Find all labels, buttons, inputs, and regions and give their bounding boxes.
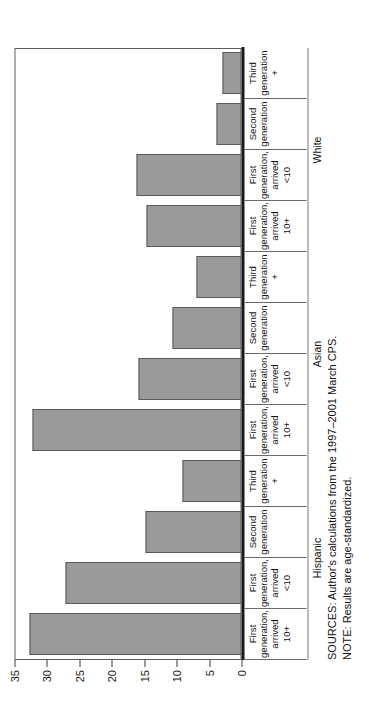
category-label-line: <10 <box>280 167 291 183</box>
chart-figure: 05101520253035 Percentage Firstgeneratio… <box>0 0 369 704</box>
category-label-line: Second <box>246 312 257 345</box>
category-axis-label: Thirdgeneration+ <box>244 48 306 99</box>
value-axis-tick <box>14 660 15 667</box>
category-label-line: generation <box>257 458 268 503</box>
value-axis-tick-label: 30 <box>40 670 52 682</box>
category-label-line: First <box>246 421 257 440</box>
category-axis: Firstgeneration,arrived10+Firstgeneratio… <box>244 47 324 660</box>
value-axis-tick-label: 20 <box>105 670 117 682</box>
category-label-line: 10+ <box>280 218 291 234</box>
category-label-line: arrived <box>268 160 279 189</box>
value-axis-tick-label: 15 <box>138 670 150 682</box>
category-label-line: Second <box>246 516 257 549</box>
category-label-line: generation, <box>257 610 268 658</box>
category-label-line: Third <box>246 470 257 492</box>
value-axis-tick <box>241 660 242 667</box>
value-axis-tick-label: 5 <box>203 670 215 676</box>
category-label-line: generation, <box>257 202 268 250</box>
bar <box>182 461 241 503</box>
category-label-line: 10+ <box>280 422 291 438</box>
category-label-line: + <box>268 274 279 280</box>
value-axis-tick <box>176 660 177 667</box>
category-axis-label: Secondgeneration <box>244 303 306 354</box>
group-label: Asian <box>308 252 324 456</box>
category-label-line: <10 <box>280 371 291 387</box>
category-label-line: 10+ <box>280 626 291 642</box>
category-label-line: arrived <box>268 211 279 240</box>
category-label-line: First <box>246 574 257 593</box>
figure: 05101520253035 Percentage Firstgeneratio… <box>0 0 369 704</box>
note-line: NOTE: Results are age-standardized. <box>339 40 354 660</box>
bar <box>32 410 241 452</box>
bar <box>146 206 241 248</box>
rotated-figure-container: 05101520253035 Percentage Firstgeneratio… <box>0 0 369 704</box>
bar <box>216 104 241 146</box>
category-label-line: First <box>246 370 257 389</box>
category-axis-label: Thirdgeneration+ <box>244 456 306 507</box>
value-axis-tick <box>111 660 112 667</box>
bar <box>196 257 241 299</box>
category-label-line: First <box>246 217 257 236</box>
category-label-line: First <box>246 166 257 185</box>
sources-note: SOURCES: Author's calculations from the … <box>324 40 339 660</box>
category-label-line: generation, <box>257 406 268 454</box>
value-axis-tick-label: 25 <box>73 670 85 682</box>
category-label-line: generation <box>257 305 268 350</box>
category-axis-label: Firstgeneration,arrived<10 <box>244 354 306 405</box>
category-axis-label: Firstgeneration,arrived<10 <box>244 150 306 201</box>
category-label-line: Second <box>246 108 257 141</box>
category-label-line: + <box>268 70 279 76</box>
footnotes: SOURCES: Author's calculations from the … <box>324 40 354 660</box>
value-axis-tick-label: 35 <box>8 670 20 682</box>
category-label-line: + <box>268 478 279 484</box>
category-label-line: Third <box>246 266 257 288</box>
value-axis-tick <box>144 660 145 667</box>
group-label: Hispanic <box>308 456 324 660</box>
category-axis-label: Thirdgeneration+ <box>244 252 306 303</box>
value-axis: 05101520253035 <box>14 660 244 704</box>
category-axis-label: Firstgeneration,arrived10+ <box>244 201 306 252</box>
value-axis-tick <box>46 660 47 667</box>
bar <box>172 308 241 350</box>
category-label-line: arrived <box>268 619 279 648</box>
category-label-line: generation <box>257 254 268 299</box>
category-label-line: generation <box>257 509 268 554</box>
value-axis-tick-label: 10 <box>170 670 182 682</box>
bar <box>145 512 241 554</box>
category-label-line: Third <box>246 62 257 84</box>
category-axis-label: Firstgeneration,arrived10+ <box>244 405 306 456</box>
category-label-line: generation, <box>257 151 268 199</box>
bar <box>29 614 241 656</box>
category-label-line: generation, <box>257 355 268 403</box>
bar <box>65 563 241 605</box>
category-label-line: First <box>246 625 257 644</box>
bar <box>222 53 241 95</box>
category-axis-label: Secondgeneration <box>244 99 306 150</box>
group-label: White <box>308 48 324 252</box>
category-label-line: arrived <box>268 568 279 597</box>
category-axis-label: Secondgeneration <box>244 507 306 558</box>
bar <box>136 155 241 197</box>
value-axis-tick <box>209 660 210 667</box>
category-label-line: <10 <box>280 575 291 591</box>
category-axis-label: Firstgeneration,arrived10+ <box>244 609 306 660</box>
category-label-line: generation <box>257 50 268 95</box>
value-axis-tick <box>79 660 80 667</box>
category-label-line: arrived <box>268 364 279 393</box>
bar <box>138 359 241 401</box>
category-label-line: generation, <box>257 559 268 607</box>
category-axis-label: Firstgeneration,arrived<10 <box>244 558 306 609</box>
value-axis-tick-label: 0 <box>235 670 247 676</box>
category-label-line: arrived <box>268 415 279 444</box>
category-label-line: generation <box>257 101 268 146</box>
